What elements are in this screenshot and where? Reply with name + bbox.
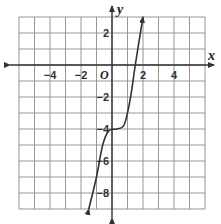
y-tick-label: 2 (103, 27, 109, 39)
x-tick-label: 4 (171, 69, 178, 81)
y-tick-label: −8 (96, 187, 109, 199)
y-tick-label: −2 (96, 91, 109, 103)
x-tick-label: −4 (44, 69, 57, 81)
x-tick-label: 2 (140, 69, 146, 81)
coordinate-plane-chart: −4−2242−2−4−6−8 x y O (0, 0, 221, 224)
x-axis-label: x (207, 48, 215, 63)
y-axis-label: y (115, 2, 124, 17)
axes (10, 6, 214, 218)
x-tick-label: −2 (75, 69, 88, 81)
origin-label: O (100, 68, 109, 82)
